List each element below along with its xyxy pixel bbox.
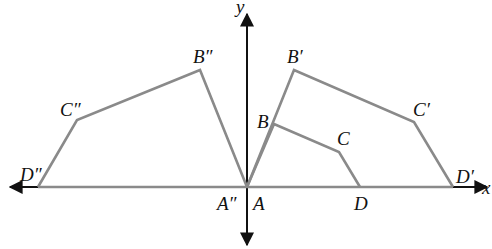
axis-label-x: x xyxy=(481,177,491,198)
point-label-c2: C″ xyxy=(60,99,82,120)
point-label-d1: D′ xyxy=(455,166,475,187)
point-label-c1: C′ xyxy=(413,99,431,120)
axis-label-y: y xyxy=(234,0,245,17)
point-label-a2: A″ xyxy=(215,193,238,214)
point-label-c: C xyxy=(337,128,350,149)
point-label-d: D xyxy=(353,193,368,214)
point-label-b1: B′ xyxy=(287,46,304,67)
diagram-canvas: y x A B C D B′ C′ D′ A″ B″ C″ D″ xyxy=(0,0,492,249)
point-label-d2: D″ xyxy=(19,164,43,185)
polygon-a2b2c2d2 xyxy=(38,70,247,187)
point-label-b: B xyxy=(257,111,269,132)
point-label-b2: B″ xyxy=(193,46,214,67)
point-label-a: A xyxy=(251,193,265,214)
